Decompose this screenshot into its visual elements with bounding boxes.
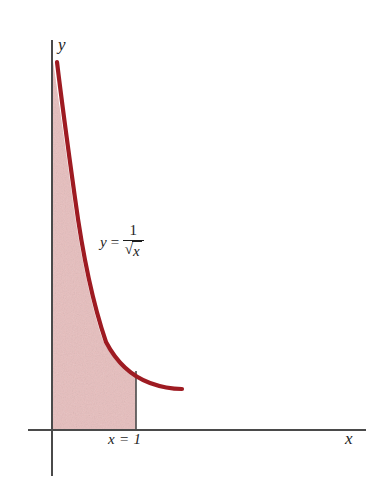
x-axis-label: x (345, 430, 353, 447)
curve-equation-label: y = 1 √ x (100, 224, 144, 262)
vertical-line-label: x = 1 (108, 432, 141, 447)
equation-equals-sign: = (110, 235, 120, 250)
figure-canvas: y x x = 1 y = 1 √ x (0, 0, 376, 485)
radical-group: √ x (125, 241, 142, 261)
equation-denominator: √ x (123, 241, 144, 261)
y-axis-label: y (58, 36, 66, 53)
equation-lhs: y (100, 235, 107, 250)
equation-fraction: 1 √ x (123, 223, 144, 261)
equation-radicand: x (132, 241, 142, 261)
radical-sign-icon: √ (125, 242, 133, 257)
figure-graphic (0, 0, 376, 485)
equation-numerator: 1 (123, 223, 144, 239)
